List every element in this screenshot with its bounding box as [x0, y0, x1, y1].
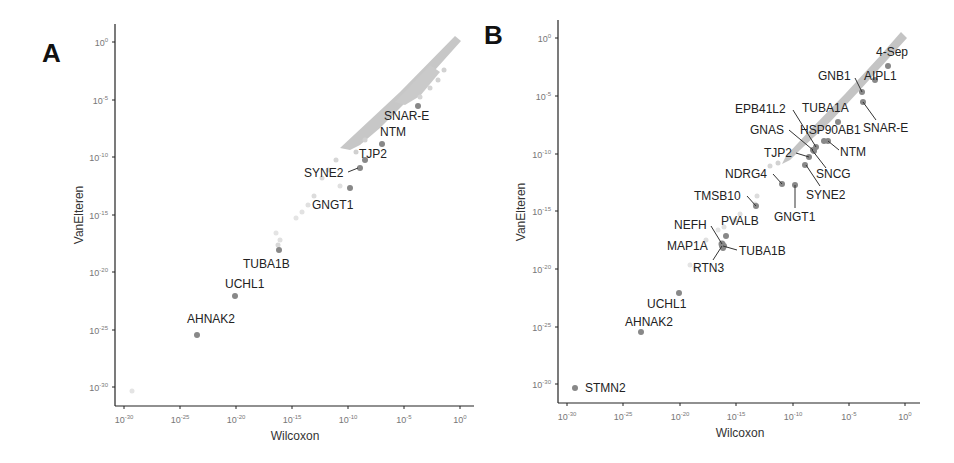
svg-text:10-15: 10-15 — [727, 411, 746, 422]
gene-label: PVALB — [721, 214, 759, 228]
svg-text:10-5: 10-5 — [396, 414, 412, 425]
background-points — [688, 32, 908, 271]
y-axis-title: VanElteren — [514, 183, 528, 241]
point-uchl1 — [676, 290, 682, 296]
point-uchl1 — [232, 293, 238, 299]
svg-text:10-15: 10-15 — [532, 206, 551, 217]
svg-text:10-20: 10-20 — [671, 411, 690, 422]
gene-label: NTM — [840, 145, 866, 159]
point-pvalb — [723, 233, 729, 239]
svg-text:10-30: 10-30 — [89, 382, 108, 393]
gene-label: STMN2 — [585, 381, 626, 395]
x-axis-tick-labels: 10-30 10-25 10-20 10-15 10-10 10-5 100 — [558, 411, 913, 422]
svg-text:100: 100 — [898, 411, 912, 422]
gene-label: NDRG4 — [725, 167, 767, 181]
x-axis-title: Wilcoxon — [716, 426, 765, 440]
gene-label: MAP1A — [667, 239, 708, 253]
svg-text:10-15: 10-15 — [283, 414, 302, 425]
gene-label: SYNE2 — [806, 188, 846, 202]
y-axis-title: VanElteren — [72, 186, 86, 244]
gene-label: GNGT1 — [774, 210, 816, 224]
svg-text:100: 100 — [538, 33, 552, 44]
gene-label: UCHL1 — [647, 297, 687, 311]
gene-label: 4-Sep — [876, 45, 908, 59]
label-connector — [348, 168, 358, 172]
point-tuba1b — [276, 247, 282, 253]
gene-label: HSP90AB1 — [800, 123, 861, 137]
svg-text:10-30: 10-30 — [532, 379, 551, 390]
gene-label: AHNAK2 — [187, 312, 235, 326]
svg-text:10-5: 10-5 — [93, 95, 109, 106]
point-stmn2 — [572, 385, 578, 391]
gene-label: NTM — [380, 125, 406, 139]
x-axis-title: Wilcoxon — [271, 429, 320, 443]
svg-text:10-5: 10-5 — [536, 91, 552, 102]
gene-label: GNGT1 — [312, 198, 354, 212]
svg-text:10-5: 10-5 — [841, 411, 857, 422]
svg-text:100: 100 — [453, 414, 467, 425]
gene-label: SNAR-E — [384, 109, 429, 123]
gene-label: SNCG — [816, 167, 851, 181]
x-axis-tick-labels: 10-30 10-25 10-20 10-15 10-10 10-5 100 — [115, 414, 468, 425]
gene-label: SNAR-E — [863, 121, 908, 135]
panel-b: B — [484, 20, 920, 440]
svg-text:10-30: 10-30 — [115, 414, 134, 425]
svg-text:10-20: 10-20 — [89, 267, 108, 278]
svg-text:10-15: 10-15 — [89, 210, 108, 221]
gene-label: AHNAK2 — [625, 315, 673, 329]
background-points — [130, 36, 462, 394]
gene-label: TMSB10 — [694, 189, 741, 203]
panel-a: A — [42, 24, 474, 443]
gene-label: AIPL1 — [864, 69, 897, 83]
gene-labels: 4-Sep AIPL1 GNB1 SNAR-E TUBA1A HSP90AB1 … — [585, 45, 908, 395]
svg-text:10-20: 10-20 — [532, 264, 551, 275]
gene-label: RTN3 — [693, 261, 724, 275]
point-ahnak2 — [638, 329, 644, 335]
svg-text:10-10: 10-10 — [89, 152, 108, 163]
svg-text:10-25: 10-25 — [614, 411, 633, 422]
gene-label: TUBA1A — [802, 101, 849, 115]
gene-label: UCHL1 — [225, 277, 265, 291]
panel-letter: A — [42, 38, 61, 68]
gene-label: GNAS — [750, 123, 784, 137]
y-axis-tick-labels: 100 10-5 10-10 10-15 10-20 10-25 10-30 — [532, 33, 551, 390]
gene-label: TJP2 — [359, 147, 387, 161]
gene-label: GNB1 — [818, 69, 851, 83]
svg-text:10-25: 10-25 — [532, 322, 551, 333]
gene-label: NEFH — [674, 218, 707, 232]
y-axis-tick-labels: 100 10-5 10-10 10-15 10-20 10-25 10-30 — [89, 37, 108, 393]
gene-label: EPB41L2 — [735, 102, 786, 116]
gene-label: SYNE2 — [304, 166, 344, 180]
point-ahnak2 — [194, 332, 200, 338]
svg-text:10-10: 10-10 — [784, 411, 803, 422]
figure: A — [0, 0, 954, 463]
point-gngt1 — [347, 185, 353, 191]
svg-text:100: 100 — [95, 37, 109, 48]
point-ntm — [821, 138, 827, 144]
gene-label: TJP2 — [764, 146, 792, 160]
gene-labels: SNAR-E NTM TJP2 SYNE2 GNGT1 TUBA1B UCHL1… — [187, 109, 429, 326]
svg-text:10-25: 10-25 — [171, 414, 190, 425]
panel-letter: B — [484, 20, 503, 50]
gene-label: TUBA1B — [243, 257, 290, 271]
gene-label: TUBA1B — [739, 244, 786, 258]
svg-text:10-20: 10-20 — [227, 414, 246, 425]
svg-text:10-10: 10-10 — [339, 414, 358, 425]
svg-text:10-30: 10-30 — [558, 411, 577, 422]
svg-text:10-25: 10-25 — [89, 325, 108, 336]
svg-text:10-10: 10-10 — [532, 149, 551, 160]
